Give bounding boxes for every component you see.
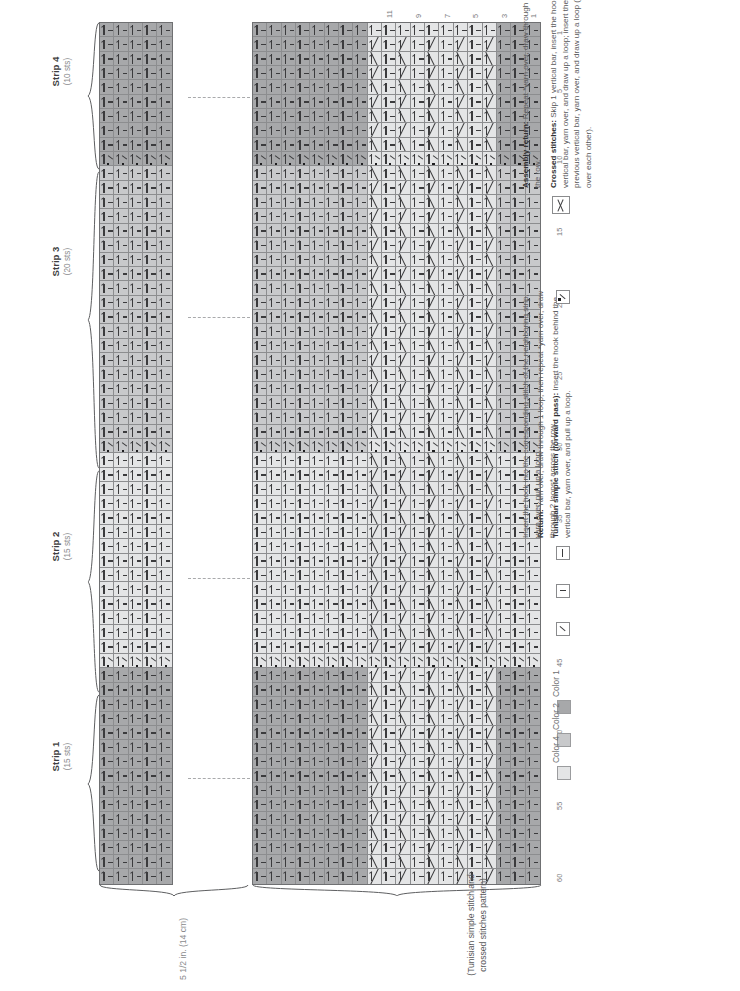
- chart-cell[interactable]: [439, 511, 453, 525]
- chart-cell[interactable]: [114, 410, 128, 424]
- chart-cell[interactable]: [468, 712, 482, 726]
- chart-cell[interactable]: [396, 712, 410, 726]
- chart-cell[interactable]: [454, 396, 468, 410]
- chart-cell[interactable]: [439, 712, 453, 726]
- chart-cell[interactable]: [282, 841, 296, 855]
- chart-cell[interactable]: [511, 238, 525, 252]
- chart-cell[interactable]: [100, 812, 114, 826]
- chart-cell[interactable]: [411, 224, 425, 238]
- chart-cell[interactable]: [267, 439, 281, 453]
- chart-cell[interactable]: [100, 668, 114, 682]
- chart-cell[interactable]: [382, 224, 396, 238]
- chart-cell[interactable]: [411, 640, 425, 654]
- chart-cell[interactable]: [325, 166, 339, 180]
- chart-cell[interactable]: [325, 668, 339, 682]
- chart-cell[interactable]: [157, 740, 171, 754]
- chart-cell[interactable]: [425, 410, 439, 424]
- chart-cell[interactable]: [454, 482, 468, 496]
- chart-cell[interactable]: [353, 310, 367, 324]
- chart-cell[interactable]: [296, 482, 310, 496]
- chart-cell[interactable]: [253, 66, 267, 80]
- chart-cell[interactable]: [454, 152, 468, 166]
- chart-cell[interactable]: [396, 755, 410, 769]
- chart-cell[interactable]: [339, 668, 353, 682]
- chart-cell[interactable]: [411, 66, 425, 80]
- chart-cell[interactable]: [411, 597, 425, 611]
- chart-cell[interactable]: [368, 826, 382, 840]
- chart-cell[interactable]: [114, 769, 128, 783]
- chart-cell[interactable]: [396, 95, 410, 109]
- chart-cell[interactable]: [114, 582, 128, 596]
- chart-cell[interactable]: [325, 152, 339, 166]
- chart-cell[interactable]: [382, 253, 396, 267]
- chart-cell[interactable]: [129, 224, 143, 238]
- chart-cell[interactable]: [253, 539, 267, 553]
- chart-cell[interactable]: [157, 224, 171, 238]
- chart-cell[interactable]: [129, 367, 143, 381]
- chart-cell[interactable]: [368, 410, 382, 424]
- chart-cell[interactable]: [100, 23, 114, 37]
- chart-cell[interactable]: [296, 396, 310, 410]
- chart-cell[interactable]: [382, 37, 396, 51]
- chart-cell[interactable]: [129, 568, 143, 582]
- chart-cell[interactable]: [114, 123, 128, 137]
- chart-cell[interactable]: [454, 439, 468, 453]
- chart-cell[interactable]: [439, 841, 453, 855]
- chart-cell[interactable]: [382, 841, 396, 855]
- chart-cell[interactable]: [267, 123, 281, 137]
- chart-cell[interactable]: [143, 367, 157, 381]
- chart-cell[interactable]: [325, 755, 339, 769]
- chart-cell[interactable]: [114, 468, 128, 482]
- chart-cell[interactable]: [129, 582, 143, 596]
- chart-cell[interactable]: [497, 826, 511, 840]
- chart-cell[interactable]: [143, 66, 157, 80]
- chart-cell[interactable]: [439, 66, 453, 80]
- chart-cell[interactable]: [382, 166, 396, 180]
- chart-cell[interactable]: [157, 654, 171, 668]
- chart-cell[interactable]: [396, 740, 410, 754]
- chart-cell[interactable]: [368, 37, 382, 51]
- chart-cell[interactable]: [325, 410, 339, 424]
- chart-cell[interactable]: [296, 826, 310, 840]
- chart-cell[interactable]: [425, 611, 439, 625]
- chart-cell[interactable]: [253, 296, 267, 310]
- chart-cell[interactable]: [129, 396, 143, 410]
- chart-cell[interactable]: [368, 152, 382, 166]
- chart-cell[interactable]: [439, 310, 453, 324]
- chart-cell[interactable]: [282, 181, 296, 195]
- chart-cell[interactable]: [325, 66, 339, 80]
- chart-cell[interactable]: [497, 582, 511, 596]
- chart-cell[interactable]: [296, 238, 310, 252]
- chart-cell[interactable]: [511, 611, 525, 625]
- chart-cell[interactable]: [310, 281, 324, 295]
- chart-cell[interactable]: [439, 138, 453, 152]
- chart-cell[interactable]: [353, 783, 367, 797]
- chart-cell[interactable]: [353, 296, 367, 310]
- chart-cell[interactable]: [339, 382, 353, 396]
- chart-cell[interactable]: [114, 869, 128, 883]
- chart-cell[interactable]: [382, 539, 396, 553]
- chart-cell[interactable]: [454, 324, 468, 338]
- chart-cell[interactable]: [368, 468, 382, 482]
- chart-cell[interactable]: [483, 568, 497, 582]
- chart-cell[interactable]: [368, 496, 382, 510]
- chart-cell[interactable]: [439, 80, 453, 94]
- chart-cell[interactable]: [253, 496, 267, 510]
- chart-cell[interactable]: [157, 769, 171, 783]
- chart-cell[interactable]: [282, 138, 296, 152]
- chart-cell[interactable]: [382, 138, 396, 152]
- chart-cell[interactable]: [353, 611, 367, 625]
- chart-cell[interactable]: [483, 267, 497, 281]
- chart-cell[interactable]: [411, 396, 425, 410]
- chart-cell[interactable]: [100, 253, 114, 267]
- chart-cell[interactable]: [310, 783, 324, 797]
- chart-cell[interactable]: [282, 195, 296, 209]
- chart-cell[interactable]: [253, 468, 267, 482]
- chart-cell[interactable]: [143, 726, 157, 740]
- chart-cell[interactable]: [483, 37, 497, 51]
- chart-cell[interactable]: [411, 166, 425, 180]
- chart-cell[interactable]: [439, 755, 453, 769]
- chart-cell[interactable]: [100, 496, 114, 510]
- chart-cell[interactable]: [368, 80, 382, 94]
- chart-cell[interactable]: [468, 697, 482, 711]
